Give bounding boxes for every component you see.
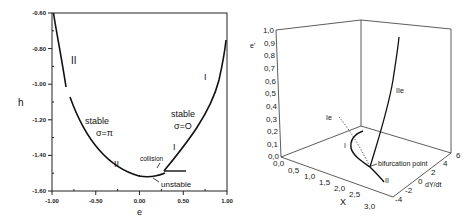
x-axis-label: e <box>137 207 142 217</box>
y-tick-label: -0.60 <box>32 10 46 16</box>
unstable-arrow-icon <box>153 178 159 182</box>
y-tick-label: -1.60 <box>32 188 46 194</box>
curve-ii <box>370 167 384 182</box>
x-axis-ticks <box>52 189 227 195</box>
x-tick-label: 1.00 <box>221 198 233 204</box>
x-tick-label: 0.00 <box>134 198 146 204</box>
z-axis-label: e' <box>250 42 255 49</box>
plot-frame <box>52 13 227 191</box>
x-axis-label: X <box>340 197 346 207</box>
z-tick-label: 0,6 <box>265 77 277 86</box>
box-3d-frame <box>276 20 451 197</box>
y-tick-label: -0.80 <box>32 46 46 52</box>
x-tick-label: 0.50 <box>177 198 189 204</box>
x-tick-label: 1,5 <box>319 178 331 187</box>
z-tick-label: 0,3 <box>266 115 278 124</box>
label-stable-left: stable <box>85 116 109 126</box>
z-tick-label: 0,5 <box>265 89 277 98</box>
y-tick-label: -1.40 <box>32 152 46 158</box>
label-sigma-pi: σ=π <box>96 128 113 138</box>
x-tick-label: -0.50 <box>89 198 103 204</box>
label-branch-ii-top: II <box>71 55 77 66</box>
label-ii: II <box>385 177 389 184</box>
z-tick-label: 0,8 <box>264 51 276 60</box>
y-tick-label: -1.20 <box>32 117 46 123</box>
y-tick-label: 6 <box>456 151 461 160</box>
figure: -0.60 -0.80 -1.00 -1.20 -1.40 -1.60 -1.0… <box>0 0 474 223</box>
label-i: I <box>344 142 346 149</box>
z-tick-label: 0,9 <box>264 39 276 48</box>
curve-iie <box>370 37 399 167</box>
bifurcation-pointer <box>371 164 377 166</box>
left-plot: -0.60 -0.80 -1.00 -1.20 -1.40 -1.60 -1.0… <box>18 10 233 217</box>
x-tick-label: 2,5 <box>349 190 361 199</box>
label-ie: Ie <box>326 114 332 121</box>
label-branch-i-mid: I <box>173 142 176 152</box>
y-tick-label: 4 <box>443 159 448 168</box>
x-tick-label: 0,5 <box>288 166 300 175</box>
y-axis-label: dY/dt <box>425 181 441 188</box>
x-tick-label: 3,0 <box>364 202 376 211</box>
collision-arrow-icon <box>157 163 160 168</box>
z-tick-label: 1,0 <box>263 26 275 35</box>
label-bifurcation-point: bifurcation point <box>378 160 427 168</box>
y-tick-label: -1.00 <box>32 81 46 87</box>
label-branch-ii-bottom: II <box>114 159 119 169</box>
label-iie: IIe <box>396 87 404 94</box>
y-axis-label: h <box>18 97 24 108</box>
y-tick-label: -2 <box>405 186 413 195</box>
branch-ii-upper <box>54 13 67 87</box>
right-plot-3d: 1,0 0,9 0,8 0,7 0,6 0,5 0,4 0,3 0,2 0,1 … <box>250 20 461 211</box>
label-branch-i-top: I <box>204 72 207 82</box>
y-tick-label: -4 <box>395 195 403 204</box>
z-tick-label: 0,4 <box>266 102 278 111</box>
x-tick-label: -1.00 <box>45 198 59 204</box>
y-axis-ticks <box>48 13 54 191</box>
y-tick-label: 2 <box>431 168 436 177</box>
x-tick-label: 1,0 <box>304 172 316 181</box>
x-tick-label: 0,0 <box>273 159 285 168</box>
x-tick-label: 2,0 <box>334 184 346 193</box>
label-collision: collision <box>140 155 164 162</box>
label-unstable: unstable <box>161 180 192 189</box>
label-sigma-zero: σ=O <box>174 121 192 131</box>
z-tick-label: 0,1 <box>267 140 279 149</box>
curve-i <box>351 131 370 167</box>
z-tick-label: 0,2 <box>267 127 279 136</box>
label-stable-right: stable <box>171 109 195 119</box>
y-tick-label: 0 <box>418 177 423 186</box>
z-tick-label: 0,7 <box>264 64 276 73</box>
